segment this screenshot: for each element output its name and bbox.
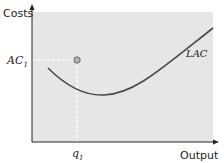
y-axis-label: Costs	[3, 8, 33, 19]
x-axis-label: Output	[180, 150, 218, 161]
ac1-point	[74, 57, 80, 63]
ac1-tick-label: AC1	[7, 55, 28, 69]
chart-canvas	[0, 0, 224, 163]
x-axis-arrow-icon	[213, 140, 219, 145]
q1-main: q	[72, 147, 79, 160]
lac-label: LAC	[186, 49, 208, 59]
q1-tick-label: q1	[72, 148, 84, 162]
q1-sub: 1	[79, 154, 83, 162]
ac1-main: AC	[7, 54, 23, 67]
ac1-sub: 1	[23, 61, 27, 69]
